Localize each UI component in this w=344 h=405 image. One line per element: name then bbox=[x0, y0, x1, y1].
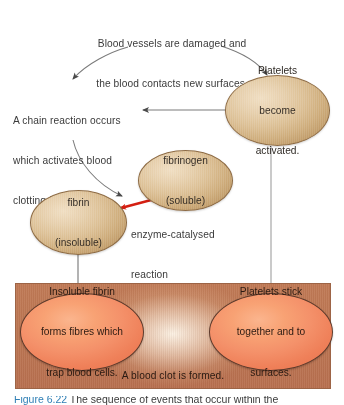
figure-canvas: Blood vessels are damaged and the blood … bbox=[0, 0, 344, 405]
clot-box-footer: A blood clot is formed. bbox=[73, 369, 273, 382]
figure-caption-label: Figure 6.22 bbox=[14, 396, 67, 405]
node-insoluble-fibrin-traps-label: Insoluble fibrin forms fibres which trap… bbox=[41, 258, 123, 405]
top-statement-line-1: Blood vessels are damaged and bbox=[72, 37, 272, 50]
enzyme-label-line-2: reaction bbox=[131, 268, 251, 281]
chain-reaction-line-2: which activates blood bbox=[13, 154, 143, 167]
node-platelets-activated: Platelets become activated. bbox=[225, 75, 330, 146]
chain-reaction-line-1: A chain reaction occurs bbox=[13, 114, 143, 127]
enzyme-label-line-1: enzyme-catalysed bbox=[131, 228, 251, 241]
node-fibrin: fibrin (insoluble) bbox=[30, 190, 127, 255]
figure-caption-line: Figure 6.22 The sequence of events that … bbox=[14, 396, 278, 405]
figure-caption: Figure 6.22 The sequence of events that … bbox=[0, 396, 344, 405]
figure-caption-text: The sequence of events that occur within… bbox=[67, 396, 278, 405]
node-platelets-stick-label: Platelets stick together and to surfaces… bbox=[237, 258, 306, 405]
node-platelets-stick: Platelets stick together and to surfaces… bbox=[209, 293, 333, 371]
node-platelets-activated-label: Platelets become activated. bbox=[256, 37, 300, 184]
node-insoluble-fibrin-traps: Insoluble fibrin forms fibres which trap… bbox=[20, 293, 144, 371]
